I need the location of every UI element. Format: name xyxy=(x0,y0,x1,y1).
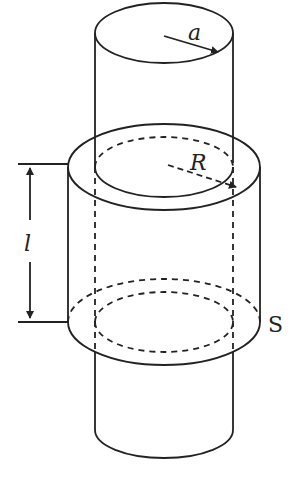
inner-cylinder-ring-top xyxy=(95,137,233,197)
inner-cylinder-bottom xyxy=(95,352,233,458)
inner-cylinder-top xyxy=(95,3,233,167)
label-a: a xyxy=(188,20,201,45)
inner-cylinder-hidden xyxy=(95,167,233,352)
coaxial-cylinder-diagram: a R l S xyxy=(0,0,304,488)
label-l: l xyxy=(24,231,31,256)
label-s: S xyxy=(268,312,283,337)
label-r: R xyxy=(189,150,207,175)
